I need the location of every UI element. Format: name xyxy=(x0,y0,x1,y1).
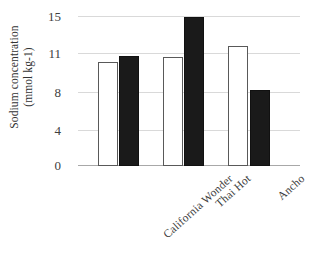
bar-california-wonder-filled xyxy=(119,56,139,166)
y-tick-label-15: 15 xyxy=(31,10,61,23)
bar-california-wonder-open xyxy=(98,62,118,166)
bar-thai-hot-filled xyxy=(184,17,204,166)
category-label-ancho: Ancho xyxy=(275,172,307,202)
bar-ancho-open xyxy=(228,46,248,166)
y-axis-title: Sodium concentration (mmol kg-1) xyxy=(7,0,47,167)
y-axis-title-line2: (mmol kg-1) xyxy=(21,0,35,167)
y-tick-label-0: 0 xyxy=(31,159,61,172)
plot-area: 15 11 8 4 0 xyxy=(78,10,300,166)
y-axis-title-line1: Sodium concentration xyxy=(7,0,21,167)
sodium-concentration-bar-chart: Sodium concentration (mmol kg-1) 15 11 8… xyxy=(0,0,309,260)
bar-ancho-filled xyxy=(250,90,270,166)
y-tick-label-11: 11 xyxy=(31,47,61,60)
y-tick-label-4: 4 xyxy=(31,124,61,137)
y-tick-label-8: 8 xyxy=(31,86,61,99)
bar-thai-hot-open xyxy=(163,57,183,166)
